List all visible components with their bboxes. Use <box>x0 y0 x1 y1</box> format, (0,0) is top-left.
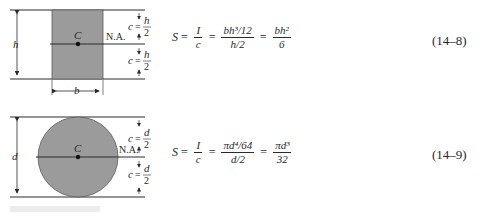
d-label: d <box>12 150 18 162</box>
svg-text:c: c <box>128 132 133 144</box>
equation-number-14-8: (14–8) <box>432 33 467 49</box>
svg-text:=: = <box>135 55 141 66</box>
svg-text:2: 2 <box>144 61 149 72</box>
equation-number-14-9: (14–9) <box>432 147 467 163</box>
equation-rectangle: S= Ic = bh³/12h/2 = bh²6 <box>172 25 294 50</box>
svg-text:=: = <box>135 21 141 32</box>
centroid-dot <box>76 42 80 46</box>
neutral-axis-label: N.A. <box>119 144 138 155</box>
centroid-dot <box>76 155 80 159</box>
svg-text:d: d <box>144 126 150 138</box>
neutral-axis-label: N.A. <box>106 31 125 42</box>
b-label: b <box>74 84 80 96</box>
svg-text:2: 2 <box>144 139 149 150</box>
svg-text:c: c <box>128 54 133 66</box>
svg-text:2: 2 <box>144 175 149 186</box>
svg-text:h: h <box>144 48 150 60</box>
svg-text:c: c <box>128 168 133 180</box>
svg-text:h: h <box>144 14 150 26</box>
svg-text:c: c <box>128 20 133 32</box>
svg-text:2: 2 <box>144 27 149 38</box>
svg-text:=: = <box>135 169 141 180</box>
h-label: h <box>13 38 19 50</box>
svg-text:d: d <box>144 162 150 174</box>
circle-section: d C N.A. c = d 2 c = d 2 <box>10 117 151 197</box>
centroid-label: C <box>74 29 82 41</box>
rectangle-section: h b C N.A. c = h 2 c = h 2 <box>10 10 151 96</box>
cut-off-caption <box>10 206 100 212</box>
centroid-label: C <box>74 142 82 154</box>
equation-circle: S= Ic = πd⁴/64d/2 = πd³32 <box>172 140 294 165</box>
svg-text:=: = <box>135 133 141 144</box>
